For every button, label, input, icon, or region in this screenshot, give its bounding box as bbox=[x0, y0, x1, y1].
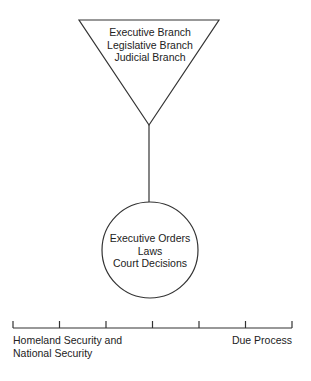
circle-line-executive-orders: Executive Orders bbox=[100, 232, 200, 245]
scale-right-label: Due Process bbox=[200, 334, 292, 347]
circle-text: Executive Orders Laws Court Decisions bbox=[100, 232, 200, 270]
triangle-line-legislative: Legislative Branch bbox=[80, 39, 220, 52]
triangle-line-judicial: Judicial Branch bbox=[80, 51, 220, 64]
triangle-line-executive: Executive Branch bbox=[80, 26, 220, 39]
circle-line-laws: Laws bbox=[100, 245, 200, 258]
triangle-text: Executive Branch Legislative Branch Judi… bbox=[80, 26, 220, 64]
scale-left-label: Homeland Security and National Security bbox=[13, 334, 163, 359]
scale-axis bbox=[13, 321, 292, 328]
circle-line-court-decisions: Court Decisions bbox=[100, 257, 200, 270]
